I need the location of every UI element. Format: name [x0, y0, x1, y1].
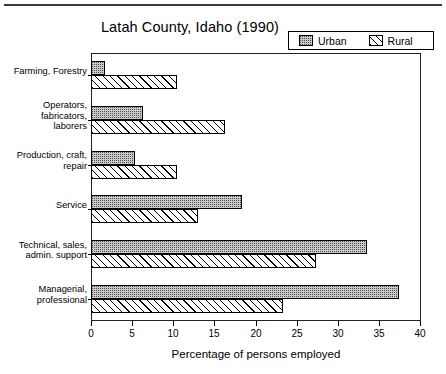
bar-urban-2: [91, 151, 135, 165]
x-tick-15: [214, 321, 215, 326]
x-tick-label-25: 25: [282, 328, 312, 339]
category-tick-2: [88, 165, 94, 166]
x-tick-label-0: 0: [76, 328, 106, 339]
category-label-3: Service: [1, 200, 87, 211]
category-label-2: Production, craft, repair: [1, 150, 87, 171]
category-tick-1: [88, 120, 94, 121]
x-tick-25: [297, 321, 298, 326]
legend-label-rural: Rural: [388, 35, 413, 47]
category-tick-5: [88, 299, 94, 300]
x-tick-label-20: 20: [241, 328, 271, 339]
legend-entry-urban: Urban: [299, 35, 347, 47]
legend-entry-rural: Rural: [369, 35, 413, 47]
bar-urban-3: [91, 195, 242, 209]
bar-rural-1: [91, 120, 225, 134]
x-tick-label-5: 5: [117, 328, 147, 339]
x-tick-label-30: 30: [323, 328, 353, 339]
x-tick-label-15: 15: [199, 328, 229, 339]
x-tick-label-35: 35: [364, 328, 394, 339]
bar-rural-2: [91, 165, 177, 179]
category-label-0: Farming, Forestry: [1, 66, 87, 77]
category-tick-4: [88, 254, 94, 255]
x-tick-35: [379, 321, 380, 326]
bar-rural-0: [91, 75, 177, 89]
plot-area: [91, 53, 421, 321]
x-axis-title: Percentage of persons employed: [91, 348, 421, 360]
bar-rural-3: [91, 209, 198, 223]
category-label-1: Operators, fabricators, laborers: [1, 100, 87, 132]
bar-urban-5: [91, 285, 399, 299]
legend-swatch-urban-icon: [299, 35, 313, 46]
chart-legend: Urban Rural: [288, 31, 434, 50]
bar-urban-0: [91, 61, 105, 75]
x-tick-5: [132, 321, 133, 326]
legend-swatch-rural-icon: [369, 35, 383, 46]
x-tick-30: [338, 321, 339, 326]
x-tick-0: [91, 321, 92, 326]
bar-urban-1: [91, 106, 143, 120]
x-tick-label-40: 40: [405, 328, 435, 339]
category-tick-0: [88, 75, 94, 76]
x-tick-40: [420, 321, 421, 326]
category-label-4: Technical, sales, admin. support: [1, 240, 87, 261]
category-label-5: Managerial, professional: [1, 284, 87, 305]
x-tick-20: [256, 321, 257, 326]
bar-urban-4: [91, 240, 367, 254]
x-tick-label-10: 10: [158, 328, 188, 339]
category-tick-3: [88, 209, 94, 210]
page-top-rule: [4, 4, 442, 6]
bar-rural-4: [91, 254, 316, 268]
bar-rural-5: [91, 299, 283, 313]
x-tick-10: [173, 321, 174, 326]
legend-label-urban: Urban: [318, 35, 347, 47]
